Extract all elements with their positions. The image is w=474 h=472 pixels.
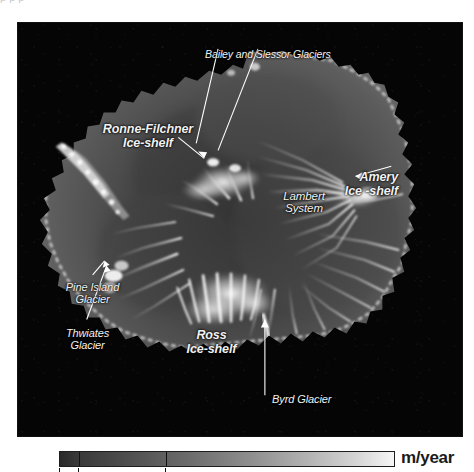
- clipped-caption-remnant: p p p: [0, 0, 474, 14]
- label-lambert-system: Lambert System: [259, 190, 349, 215]
- arrowhead-byrd: [261, 320, 269, 328]
- label-pine-island-glacier: Pine Island Glacier: [40, 282, 145, 306]
- colorbar-tick-1: [79, 452, 80, 466]
- colorbar-edge-tick-a: [78, 468, 79, 472]
- colorbar-tick-2: [166, 452, 167, 466]
- map-image-panel: Bailey and Slessor Glaciers Ronne-Filchn…: [17, 22, 463, 437]
- velocity-colorbar: [59, 451, 395, 467]
- leader-line-slessor: [218, 49, 258, 151]
- velocity-colorbar-group: m/year: [0, 449, 474, 472]
- colorbar-edge-tick-b: [165, 468, 166, 472]
- colorbar-unit-label: m/year: [401, 448, 454, 468]
- leader-line-pine-island: [93, 261, 105, 275]
- antarctica-velocity-figure: p p p: [0, 0, 474, 472]
- label-ross-ice-shelf: Ross Ice-shelf: [159, 329, 264, 356]
- annotation-leader-lines: [18, 23, 462, 436]
- clipped-caption-text: p p p: [0, 0, 24, 3]
- label-thwiates-glacier: Thwiates Glacier: [35, 328, 140, 352]
- label-bailey-and-slessor-glaciers: Bailey and Slessor Glaciers: [205, 49, 331, 60]
- colorbar-edge-tick-left: [59, 468, 60, 472]
- label-byrd-glacier: Byrd Glacier: [272, 394, 331, 406]
- label-ronne-filchner-ice-shelf: Ronne-Filchner Ice-shelf: [83, 123, 213, 150]
